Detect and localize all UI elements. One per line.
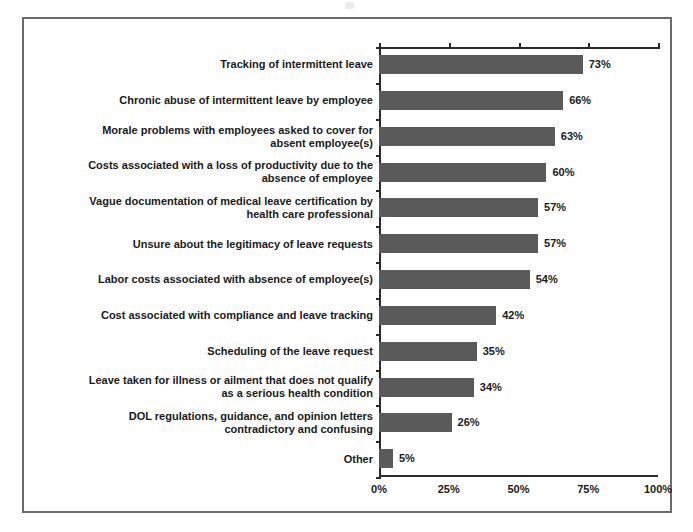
bar-row: 57%Unsure about the legitimacy of leave … bbox=[379, 226, 658, 262]
x-axis-tick-labels: 0%25%50%75%100% bbox=[379, 483, 658, 499]
bar-value-label: 66% bbox=[569, 92, 591, 109]
bar-value-label: 5% bbox=[399, 450, 415, 467]
bar bbox=[379, 378, 474, 397]
chart-frame: 73%Tracking of intermittent leave66%Chro… bbox=[22, 17, 672, 513]
bar-value-label: 42% bbox=[502, 307, 524, 324]
bar-row: 57%Vague documentation of medical leave … bbox=[379, 190, 658, 226]
bar bbox=[379, 163, 546, 182]
bar bbox=[379, 55, 583, 74]
category-label: Unsure about the legitimacy of leave req… bbox=[83, 238, 373, 251]
x-axis-tick-label: 25% bbox=[438, 483, 460, 495]
bar-row: 73%Tracking of intermittent leave bbox=[379, 47, 658, 83]
x-axis-tick-label: 75% bbox=[577, 483, 599, 495]
category-label: Other bbox=[83, 453, 373, 466]
bar-row: 26%DOL regulations, guidance, and opinio… bbox=[379, 405, 658, 441]
bar-value-label: 57% bbox=[544, 235, 566, 252]
x-axis-tick-label: 0% bbox=[371, 483, 387, 495]
category-label: Costs associated with a loss of producti… bbox=[83, 159, 373, 185]
bar bbox=[379, 449, 393, 468]
bar bbox=[379, 234, 538, 253]
bar bbox=[379, 413, 452, 432]
bar-rows: 73%Tracking of intermittent leave66%Chro… bbox=[379, 47, 658, 477]
bar-row: 66%Chronic abuse of intermittent leave b… bbox=[379, 83, 658, 119]
bar-row: 63%Morale problems with employees asked … bbox=[379, 119, 658, 155]
bar-value-label: 57% bbox=[544, 199, 566, 216]
plot-area: 73%Tracking of intermittent leave66%Chro… bbox=[379, 47, 658, 477]
category-label: Chronic abuse of intermittent leave by e… bbox=[83, 94, 373, 107]
scan-artifact bbox=[345, 2, 354, 9]
bar bbox=[379, 306, 496, 325]
bar-row: 34%Leave taken for illness or ailment th… bbox=[379, 370, 658, 406]
bar-value-label: 60% bbox=[552, 164, 574, 181]
category-label: Vague documentation of medical leave cer… bbox=[83, 195, 373, 221]
category-label: Cost associated with compliance and leav… bbox=[83, 309, 373, 322]
bar bbox=[379, 91, 563, 110]
category-label: Scheduling of the leave request bbox=[83, 345, 373, 358]
bar-row: 5%Other bbox=[379, 441, 658, 477]
bar-row: 54%Labor costs associated with absence o… bbox=[379, 262, 658, 298]
y-axis-tick bbox=[376, 477, 381, 479]
bar-value-label: 34% bbox=[480, 379, 502, 396]
x-axis-tick-label: 50% bbox=[507, 483, 529, 495]
bar bbox=[379, 198, 538, 217]
category-label: Labor costs associated with absence of e… bbox=[83, 273, 373, 286]
bar-value-label: 35% bbox=[483, 343, 505, 360]
category-label: DOL regulations, guidance, and opinion l… bbox=[83, 410, 373, 436]
bar-value-label: 54% bbox=[536, 271, 558, 288]
bar-row: 35%Scheduling of the leave request bbox=[379, 334, 658, 370]
bar bbox=[379, 270, 530, 289]
bar-value-label: 26% bbox=[458, 414, 480, 431]
category-label: Tracking of intermittent leave bbox=[83, 58, 373, 71]
x-axis-tick-label: 100% bbox=[644, 483, 672, 495]
bar-value-label: 63% bbox=[561, 128, 583, 145]
bar-value-label: 73% bbox=[589, 56, 611, 73]
x-axis-tick bbox=[658, 43, 660, 49]
bar-row: 60%Costs associated with a loss of produ… bbox=[379, 155, 658, 191]
category-label: Morale problems with employees asked to … bbox=[83, 124, 373, 150]
category-label: Leave taken for illness or ailment that … bbox=[83, 374, 373, 400]
bar bbox=[379, 342, 477, 361]
bar bbox=[379, 127, 555, 146]
bar-row: 42%Cost associated with compliance and l… bbox=[379, 298, 658, 334]
